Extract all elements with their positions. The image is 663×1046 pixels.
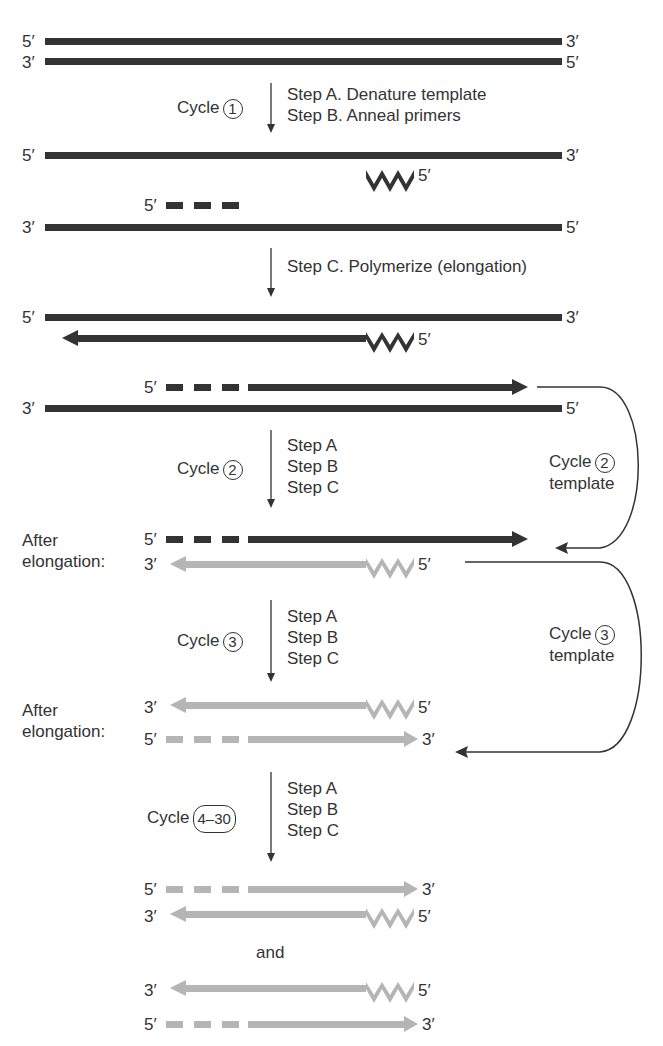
- primer-dashed-1: [166, 202, 183, 209]
- end-label: 5′: [566, 400, 579, 417]
- end-label: 5′: [418, 699, 431, 716]
- cycle2-template-label: Cycle2template: [549, 451, 615, 494]
- pcr-diagram: 5′ 3′ 3′ 5′ Cycle1 Step A. Denature temp…: [0, 0, 663, 1046]
- primer-zigzag-icon: [366, 170, 414, 192]
- end-label: 5′: [22, 147, 35, 164]
- cycle2-label: Cycle2: [177, 460, 243, 480]
- end-label: 5′: [144, 1016, 157, 1033]
- end-label: 5′: [144, 379, 157, 396]
- end-label: 3′: [22, 54, 35, 71]
- end-label: 3′: [422, 731, 435, 748]
- end-label: 3′: [144, 982, 157, 999]
- end-label: 5′: [144, 881, 157, 898]
- end-label: 3′: [144, 699, 157, 716]
- after-elongation-label: Afterelongation:: [22, 700, 105, 742]
- end-label: 3′: [144, 556, 157, 573]
- end-label: 5′: [418, 556, 431, 573]
- end-label: 5′: [418, 331, 431, 348]
- end-label: 5′: [418, 167, 431, 184]
- end-label: 5′: [144, 731, 157, 748]
- cycle4-steps: Step AStep BStep C: [287, 778, 339, 841]
- cycle3-template-label: Cycle3template: [549, 623, 615, 666]
- cycle4-label: Cycle4–30: [147, 805, 236, 833]
- cycle1-steps: Step A. Denature templateStep B. Anneal …: [287, 84, 486, 126]
- end-label: 3′: [144, 908, 157, 925]
- cycle1-label: Cycle1: [177, 99, 243, 119]
- light-strand-reverse: [170, 556, 366, 572]
- end-label: 3′: [422, 1016, 435, 1033]
- end-label: 5′: [566, 54, 579, 71]
- template-strand-bottom: [45, 58, 562, 65]
- end-label: 5′: [22, 309, 35, 326]
- end-label: 3′: [566, 309, 579, 326]
- cycle2-steps: Step AStep BStep C: [287, 435, 339, 498]
- new-strand-forward: [248, 379, 528, 395]
- end-label: 5′: [418, 908, 431, 925]
- template-strand-top: [45, 38, 562, 45]
- end-label: 5′: [144, 531, 157, 548]
- after-elongation-label: Afterelongation:: [22, 530, 105, 572]
- end-label: 3′: [566, 147, 579, 164]
- end-label: 5′: [418, 982, 431, 999]
- stepC-label: Step C. Polymerize (elongation): [287, 256, 527, 277]
- end-label: 3′: [422, 881, 435, 898]
- and-label: and: [256, 944, 284, 961]
- end-label: 5′: [566, 219, 579, 236]
- end-label: 3′: [22, 219, 35, 236]
- diagram-canvas: [0, 0, 663, 1046]
- new-strand-reverse: [62, 330, 366, 346]
- end-label: 3′: [22, 400, 35, 417]
- end-label: 5′: [22, 33, 35, 50]
- template-strand-bottom-denatured: [45, 224, 562, 231]
- end-label: 3′: [566, 33, 579, 50]
- end-label: 5′: [144, 197, 157, 214]
- cycle3-label: Cycle3: [177, 632, 243, 652]
- template-strand-top-denatured: [45, 152, 562, 159]
- cycle3-steps: Step AStep BStep C: [287, 606, 339, 669]
